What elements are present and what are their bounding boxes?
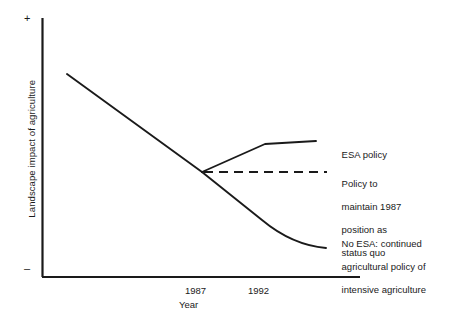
x-axis-label: Year [179, 299, 198, 311]
annotation-no-esa: No ESA: continued agricultural policy of… [331, 226, 426, 307]
annotation-esa-policy-line-1: ESA policy [342, 149, 387, 160]
series-esa-policy-line [202, 141, 316, 172]
series-historic-trend-line [67, 74, 202, 172]
y-axis-label: Landscape impact of agriculture [26, 49, 38, 249]
annotation-status-quo-line-2: maintain 1987 [342, 201, 402, 212]
y-axis-minus-symbol: – [24, 263, 30, 275]
annotation-no-esa-line-1: No ESA: continued [342, 238, 422, 249]
series-no-esa-curve [202, 172, 326, 248]
annotation-status-quo-line-1: Policy to [342, 178, 378, 189]
y-axis-plus-symbol: + [24, 13, 30, 25]
x-axis-tick-label-1992: 1992 [248, 285, 269, 297]
annotation-no-esa-line-3: intensive agriculture [342, 284, 427, 295]
annotation-no-esa-line-2: agricultural policy of [342, 261, 426, 272]
x-axis-tick-label-1987: 1987 [185, 285, 206, 297]
chart-figure: Landscape impact of agriculture + – 1987… [0, 0, 461, 330]
